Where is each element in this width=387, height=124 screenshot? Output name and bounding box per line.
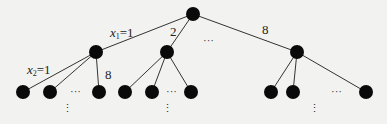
root-node: [186, 7, 200, 21]
ellipsis-vertical: ⋮: [162, 102, 173, 114]
leaf-node: [184, 85, 198, 99]
leaf-node: [43, 85, 57, 99]
leaf-node: [16, 85, 30, 99]
edge-label-a-first: x2=1: [26, 62, 51, 78]
ellipsis-horizontal: ···: [331, 85, 342, 97]
search-tree-diagram: x1=1 2 8 x2=1 8 ··· ··· ··· ··· ⋮ ⋮ ⋮: [0, 0, 387, 124]
leaf-node: [145, 85, 159, 99]
edge-root-c: [193, 14, 297, 52]
edge-label-root-a: x1=1: [109, 25, 134, 41]
ellipsis-vertical: ⋮: [62, 102, 73, 114]
node-b: [160, 45, 174, 59]
edge-label-a-last: 8: [105, 67, 112, 82]
edge-label-root-c: 8: [262, 22, 269, 37]
ellipsis-horizontal: ···: [166, 85, 177, 97]
leaf-node: [286, 85, 300, 99]
leaf-node: [264, 85, 278, 99]
tree-edges: [23, 14, 366, 92]
ellipsis-horizontal: ···: [203, 34, 214, 46]
ellipsis-vertical: ⋮: [309, 102, 320, 114]
edge-b-leaf1: [125, 52, 167, 92]
ellipsis-horizontal: ···: [70, 85, 81, 97]
edge-label-root-b: 2: [170, 24, 177, 39]
node-c: [290, 45, 304, 59]
node-a: [89, 45, 103, 59]
leaf-node: [359, 85, 373, 99]
leaf-node: [118, 85, 132, 99]
leaf-node: [92, 85, 106, 99]
